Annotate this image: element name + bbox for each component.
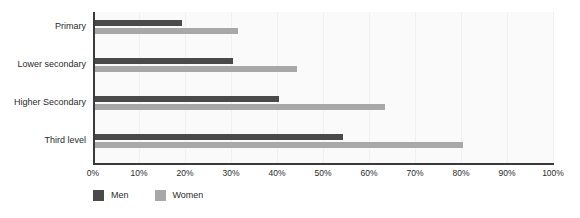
- category-label: Higher Secondary: [0, 97, 86, 108]
- legend-swatch-men: [93, 190, 104, 201]
- chart-rows: PrimaryLower secondaryHigher SecondaryTh…: [0, 12, 580, 164]
- x-tick-label: 30%: [211, 167, 251, 179]
- bar-men: [95, 58, 233, 64]
- x-tick-label: 60%: [349, 167, 389, 179]
- x-tick-label: 50%: [303, 167, 343, 179]
- bar-women: [95, 66, 297, 72]
- x-tick-label: 90%: [487, 167, 527, 179]
- bar-group: [95, 134, 555, 156]
- x-tick-label: 70%: [395, 167, 435, 179]
- legend-swatch-women: [155, 190, 166, 201]
- legend-label: Women: [173, 190, 204, 201]
- x-tick-label: 80%: [441, 167, 481, 179]
- bar-group: [95, 20, 555, 42]
- bar-women: [95, 28, 238, 34]
- bar-women: [95, 104, 385, 110]
- x-tick-label: 10%: [119, 167, 159, 179]
- x-tick-label: 0%: [73, 167, 113, 179]
- bar-men: [95, 134, 343, 140]
- chart-row: Higher Secondary: [0, 88, 580, 126]
- x-tick-label: 100%: [533, 167, 573, 179]
- category-label: Lower secondary: [0, 59, 86, 70]
- category-label: Third level: [0, 135, 86, 146]
- legend-label: Men: [111, 190, 129, 201]
- bar-group: [95, 58, 555, 80]
- category-label: Primary: [0, 21, 86, 32]
- chart-row: Third level: [0, 126, 580, 164]
- x-tick-label: 40%: [257, 167, 297, 179]
- bar-women: [95, 142, 463, 148]
- bar-men: [95, 20, 182, 26]
- legend-item-men[interactable]: Men: [93, 190, 129, 201]
- bar-men: [95, 96, 279, 102]
- legend-item-women[interactable]: Women: [155, 190, 204, 201]
- x-axis-tick-labels: 0%10%20%30%40%50%60%70%80%90%100%: [93, 167, 553, 181]
- chart-legend: MenWomen: [93, 190, 203, 201]
- bar-chart: PrimaryLower secondaryHigher SecondaryTh…: [0, 0, 580, 218]
- chart-row: Lower secondary: [0, 50, 580, 88]
- chart-row: Primary: [0, 12, 580, 50]
- x-tick-label: 20%: [165, 167, 205, 179]
- bar-group: [95, 96, 555, 118]
